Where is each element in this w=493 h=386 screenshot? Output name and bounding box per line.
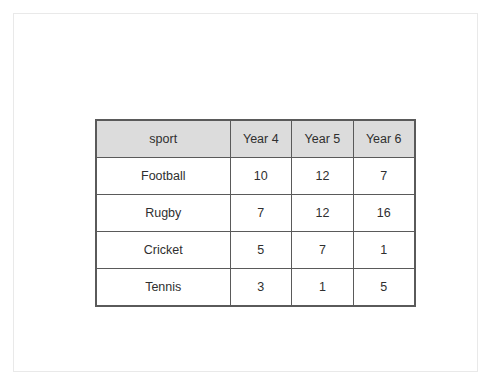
cell-sport: Rugby (96, 195, 230, 232)
column-header-year-4: Year 4 (230, 120, 292, 158)
table-row: Rugby 7 12 16 (96, 195, 415, 232)
cell-year-4: 10 (230, 158, 292, 195)
cell-year-5: 1 (292, 269, 354, 307)
column-header-year-5: Year 5 (292, 120, 354, 158)
column-header-sport: sport (96, 120, 230, 158)
table-header-row: sport Year 4 Year 5 Year 6 (96, 120, 415, 158)
cell-year-4: 3 (230, 269, 292, 307)
sports-participation-table: sport Year 4 Year 5 Year 6 Football 10 1… (95, 119, 416, 307)
cell-sport: Football (96, 158, 230, 195)
cell-sport: Cricket (96, 232, 230, 269)
page-canvas: sport Year 4 Year 5 Year 6 Football 10 1… (0, 0, 493, 386)
cell-year-5: 7 (292, 232, 354, 269)
sports-table-container: sport Year 4 Year 5 Year 6 Football 10 1… (95, 119, 414, 299)
cell-year-5: 12 (292, 158, 354, 195)
cell-year-4: 7 (230, 195, 292, 232)
page-frame-border: sport Year 4 Year 5 Year 6 Football 10 1… (13, 13, 478, 372)
cell-year-5: 12 (292, 195, 354, 232)
table-row: Cricket 5 7 1 (96, 232, 415, 269)
column-header-year-6: Year 6 (353, 120, 415, 158)
table-body: Football 10 12 7 Rugby 7 12 16 Cricket 5 (96, 158, 415, 307)
cell-year-6: 1 (353, 232, 415, 269)
table-row: Tennis 3 1 5 (96, 269, 415, 307)
table-row: Football 10 12 7 (96, 158, 415, 195)
cell-year-6: 5 (353, 269, 415, 307)
cell-year-6: 16 (353, 195, 415, 232)
cell-year-6: 7 (353, 158, 415, 195)
cell-sport: Tennis (96, 269, 230, 307)
cell-year-4: 5 (230, 232, 292, 269)
table-header: sport Year 4 Year 5 Year 6 (96, 120, 415, 158)
